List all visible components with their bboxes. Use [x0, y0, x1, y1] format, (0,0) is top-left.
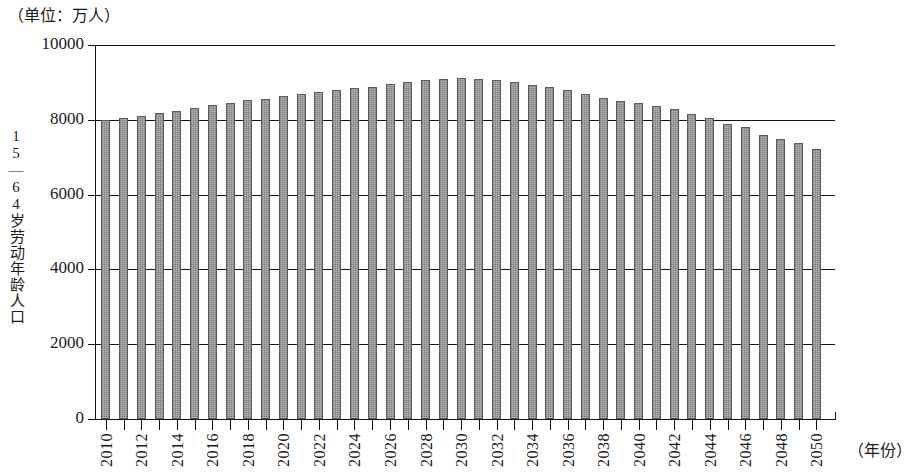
x-axis-tick-label: 2042 — [666, 433, 684, 467]
bar — [759, 135, 768, 419]
x-axis-tick — [656, 420, 657, 430]
x-axis-tick — [195, 420, 196, 430]
y-axis-tick-label: 8000 — [50, 109, 84, 129]
x-axis-tick — [106, 420, 107, 430]
bar — [741, 127, 750, 419]
bar — [563, 90, 572, 419]
x-axis-tick — [781, 420, 782, 430]
x-axis-tick — [816, 420, 817, 430]
bar — [208, 105, 217, 419]
x-axis-tick — [568, 420, 569, 430]
x-axis-tick — [443, 420, 444, 430]
bar — [670, 109, 679, 419]
x-axis-title: （年份） — [848, 437, 912, 461]
x-axis-tick-label: 2050 — [808, 433, 826, 467]
x-axis-tick — [514, 420, 515, 430]
x-axis-tick-label: 2016 — [204, 433, 222, 467]
x-axis-tick — [177, 420, 178, 430]
bar — [687, 114, 696, 419]
bar — [545, 87, 554, 419]
bar — [776, 139, 785, 420]
x-axis-tick — [585, 420, 586, 430]
bar — [457, 78, 466, 419]
x-axis-tick — [354, 420, 355, 430]
x-axis-tick — [390, 420, 391, 430]
x-axis-tick-label: 2030 — [453, 433, 471, 467]
x-axis-tick — [301, 420, 302, 430]
x-axis-tick — [159, 420, 160, 430]
x-axis-right-cap — [835, 412, 836, 420]
x-axis-tick — [248, 420, 249, 430]
bar — [243, 100, 252, 419]
bar — [155, 113, 164, 419]
x-axis-tick — [408, 420, 409, 430]
bar — [190, 108, 199, 419]
bar — [616, 101, 625, 419]
bar — [634, 103, 643, 419]
x-axis-tick — [461, 420, 462, 430]
bar — [350, 88, 359, 419]
y-axis-tick — [88, 195, 97, 196]
y-axis-tick-label: 10000 — [42, 34, 85, 54]
x-axis-tick — [674, 420, 675, 430]
bar — [492, 80, 501, 419]
bar — [172, 111, 181, 419]
y-axis-tick-label: 0 — [76, 408, 85, 428]
y-axis-tick — [88, 269, 97, 270]
x-axis-tick — [426, 420, 427, 430]
y-axis-tick-label: 6000 — [50, 184, 84, 204]
y-axis-tick — [88, 120, 97, 121]
x-axis-tick-label: 2032 — [489, 433, 507, 467]
x-axis-tick-label: 2034 — [524, 433, 542, 467]
bar — [368, 87, 377, 419]
x-axis-tick — [266, 420, 267, 430]
bar — [581, 94, 590, 419]
bar — [723, 124, 732, 419]
plot-area — [96, 45, 835, 419]
x-axis-tick — [710, 420, 711, 430]
x-axis-tick-label: 2010 — [98, 433, 116, 467]
x-axis-tick — [745, 420, 746, 430]
x-axis-tick — [799, 420, 800, 430]
bar — [261, 99, 270, 419]
bar — [421, 80, 430, 419]
x-axis-tick-label: 2038 — [595, 433, 613, 467]
x-axis-tick — [141, 420, 142, 430]
x-axis-tick — [497, 420, 498, 430]
bar — [794, 143, 803, 419]
bar — [297, 94, 306, 419]
x-axis-tick — [728, 420, 729, 430]
x-axis-tick — [319, 420, 320, 430]
bar — [403, 82, 412, 419]
x-axis-tick-label: 2036 — [560, 433, 578, 467]
bar — [652, 106, 661, 419]
x-axis-tick-label: 2026 — [382, 433, 400, 467]
x-axis-tick — [479, 420, 480, 430]
x-axis-tick — [124, 420, 125, 430]
x-axis-tick — [603, 420, 604, 430]
x-axis-tick-label: 2040 — [631, 433, 649, 467]
y-axis-tick — [88, 419, 97, 420]
y-axis-tick — [88, 344, 97, 345]
bar — [279, 96, 288, 419]
bar — [599, 98, 608, 419]
bar — [101, 120, 110, 419]
x-axis-tick — [621, 420, 622, 430]
bar — [314, 92, 323, 419]
bar — [332, 90, 341, 419]
bar — [528, 85, 537, 419]
bar — [439, 79, 448, 419]
x-axis-tick — [230, 420, 231, 430]
bar — [226, 103, 235, 419]
x-axis-tick — [692, 420, 693, 430]
x-axis-tick-label: 2028 — [418, 433, 436, 467]
x-axis-tick — [532, 420, 533, 430]
bar — [386, 84, 395, 419]
y-axis-tick-labels: 0200040006000800010000 — [0, 0, 84, 473]
x-axis-tick — [639, 420, 640, 430]
x-axis-tick-label: 2012 — [133, 433, 151, 467]
x-axis-tick — [283, 420, 284, 430]
gridline — [96, 45, 835, 46]
y-axis-tick-label: 2000 — [50, 333, 84, 353]
x-axis-tick — [372, 420, 373, 430]
